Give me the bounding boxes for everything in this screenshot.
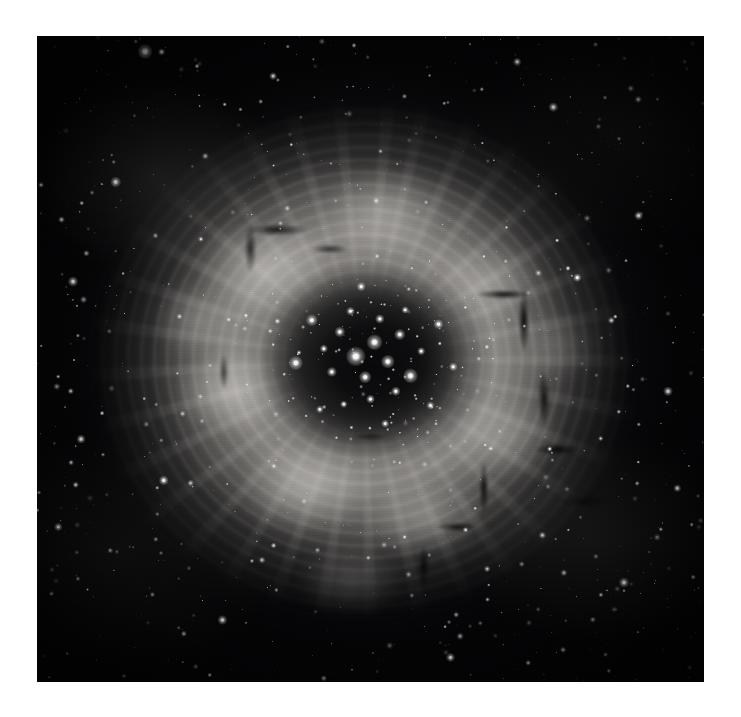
page-canvas [0, 0, 741, 717]
ngc2244-cluster-layer [37, 36, 704, 682]
astrophoto-plate [37, 36, 704, 682]
